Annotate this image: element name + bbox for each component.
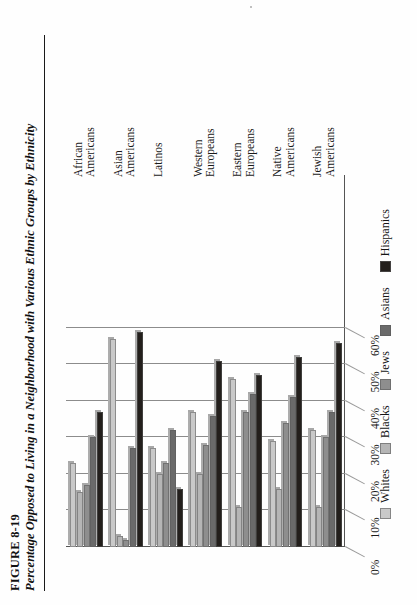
legend-item-blacks[interactable]: Blacks <box>378 405 393 454</box>
bar-whites-1 <box>110 339 116 547</box>
bar-face <box>243 412 249 547</box>
figure-number: FIGURE 8-19 <box>8 31 22 591</box>
bar-group <box>106 175 146 547</box>
bar-face <box>123 540 129 547</box>
bar-whites-6 <box>310 430 316 547</box>
legend-swatch-hispanics <box>380 261 391 272</box>
bar-face <box>230 379 236 547</box>
bar-asians-5 <box>290 397 296 547</box>
bar-face <box>84 485 90 547</box>
heading-rule <box>44 35 45 591</box>
bar-jews-4 <box>243 412 249 547</box>
tick-label-10%: 10% <box>369 517 381 538</box>
bar-asians-0 <box>90 438 96 548</box>
bar-face <box>329 412 335 547</box>
bar-group <box>146 175 186 547</box>
bar-asians-4 <box>250 394 256 547</box>
bar-face <box>256 375 262 547</box>
bar-group <box>225 175 265 547</box>
bar-face <box>117 536 123 547</box>
legend-swatch-jews <box>380 379 391 390</box>
tick-stem-30 <box>345 437 365 448</box>
legend-item-jews[interactable]: Jews <box>378 351 393 390</box>
tick-stem-60 <box>345 327 365 338</box>
bar-hispanics-0 <box>97 412 103 547</box>
figure-heading: FIGURE 8-19 Percentage Opposed to Living… <box>8 31 38 591</box>
legend-swatch-asians <box>380 325 391 336</box>
bar-jews-2 <box>163 463 169 547</box>
page-speckle <box>250 6 252 8</box>
bar-face <box>316 507 322 547</box>
legend-label: Blacks <box>378 405 393 438</box>
bar-face <box>197 474 203 547</box>
legend-item-whites[interactable]: Whites <box>378 469 393 519</box>
chart-plot-area: 0%10%20%30%40%50%60% African AmericansAs… <box>66 175 345 547</box>
bar-face <box>137 332 143 547</box>
bar-whites-3 <box>190 412 196 547</box>
bar-face <box>157 474 163 547</box>
bar-face <box>90 438 96 548</box>
bar-face <box>110 339 116 547</box>
bar-hispanics-6 <box>336 343 342 547</box>
bar-group <box>186 175 226 547</box>
bar-face <box>323 438 329 548</box>
bar-face <box>216 361 222 547</box>
bar-whites-4 <box>230 379 236 547</box>
tick-label-0%: 0% <box>369 560 381 575</box>
legend-label: Asians <box>378 287 393 320</box>
bar-jews-5 <box>283 423 289 547</box>
bar-asians-1 <box>130 448 136 547</box>
legend-label: Hispanics <box>378 209 393 256</box>
bar-face <box>190 412 196 547</box>
bar-jews-6 <box>323 438 329 548</box>
bar-face <box>170 430 176 547</box>
bar-face <box>210 416 216 547</box>
bar-face <box>296 357 302 547</box>
tick-stem-0 <box>345 546 365 557</box>
legend-swatch-whites <box>380 508 391 519</box>
legend-label: Whites <box>378 469 393 503</box>
bar-blacks-5 <box>276 489 282 547</box>
bar-face <box>97 412 103 547</box>
legend-swatch-blacks <box>380 443 391 454</box>
bar-face <box>163 463 169 547</box>
legend-label: Jews <box>378 351 393 374</box>
bar-asians-2 <box>170 430 176 547</box>
bar-face <box>236 507 242 547</box>
bar-face <box>203 445 209 547</box>
bar-blacks-6 <box>316 507 322 547</box>
bar-face <box>290 397 296 547</box>
bar-hispanics-4 <box>256 375 262 547</box>
bar-face <box>310 430 316 547</box>
bar-hispanics-2 <box>177 489 183 547</box>
bar-hispanics-1 <box>137 332 143 547</box>
bar-blacks-3 <box>197 474 203 547</box>
chart-legend: WhitesBlacksJewsAsiansHispanics <box>378 209 393 519</box>
bar-group <box>66 175 106 547</box>
bar-face <box>77 492 83 547</box>
bar-group <box>265 175 305 547</box>
bar-whites-2 <box>150 448 156 547</box>
tick-stem-40 <box>345 400 365 411</box>
bar-blacks-0 <box>77 492 83 547</box>
bar-blacks-4 <box>236 507 242 547</box>
bar-face <box>70 463 76 547</box>
bar-asians-6 <box>329 412 335 547</box>
tick-stem-50 <box>345 364 365 375</box>
bar-blacks-1 <box>117 536 123 547</box>
bar-face <box>336 343 342 547</box>
rotated-page-stage: FIGURE 8-19 Percentage Opposed to Living… <box>0 0 417 605</box>
bar-face <box>270 441 276 547</box>
tick-stem-10 <box>345 510 365 521</box>
legend-item-asians[interactable]: Asians <box>378 287 393 336</box>
tick-stem-20 <box>345 473 365 484</box>
bar-jews-3 <box>203 445 209 547</box>
bar-face <box>250 394 256 547</box>
bar-face <box>177 489 183 547</box>
bar-group <box>305 175 345 547</box>
bar-whites-0 <box>70 463 76 547</box>
bar-face <box>283 423 289 547</box>
legend-item-hispanics[interactable]: Hispanics <box>378 209 393 272</box>
bar-face <box>150 448 156 547</box>
bar-jews-1 <box>123 540 129 547</box>
